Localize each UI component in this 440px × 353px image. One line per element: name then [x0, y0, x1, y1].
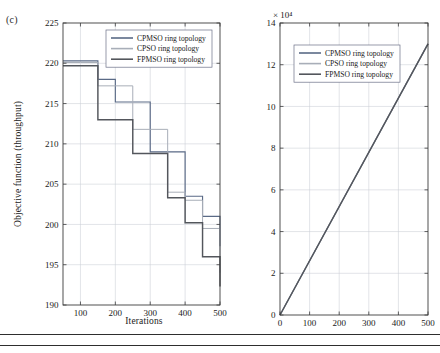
series-line-fpmso	[280, 44, 428, 315]
y-axis-label-left: Objective function (throughput)	[13, 56, 23, 271]
y-axis-exponent-right: × 10⁴	[273, 10, 292, 20]
y-tick-label: 210	[45, 139, 59, 149]
legend-label-fpmso: FPMSO ring topology	[325, 70, 393, 79]
chart-panel-left: Objective function (throughput) Iteratio…	[0, 0, 228, 353]
chart-panel-right: Fitness function evaluations Iterations …	[228, 0, 440, 353]
series-line-cpso	[63, 62, 220, 272]
legend-left: CPMSO ring topologyCPSO ring topologyFPM…	[106, 30, 212, 67]
legend-label-fpmso: FPMSO ring topology	[137, 55, 205, 64]
figure-container: (c) Objective function (throughput) Iter…	[0, 0, 440, 353]
y-tick-label: 0	[271, 310, 276, 320]
y-tick-label: 10	[267, 102, 277, 112]
y-tick-label: 200	[45, 220, 59, 230]
legend-label-cpmso: CPMSO ring topology	[325, 49, 394, 58]
legend-right: CPMSO ring topologyCPSO ring topologyFPM…	[294, 45, 400, 82]
x-tick-label: 100	[303, 318, 317, 328]
legend-label-cpso: CPSO ring topology	[325, 59, 387, 68]
y-tick-label: 2	[271, 268, 276, 278]
x-tick-label: 200	[332, 318, 346, 328]
footer-divider-top	[0, 334, 440, 335]
x-tick-label: 500	[421, 318, 435, 328]
x-tick-label: 400	[392, 318, 406, 328]
plot-area-right: 024681012140100200300400500CPMSO ring to…	[228, 0, 440, 353]
y-tick-label: 4	[271, 227, 276, 237]
y-tick-label: 220	[45, 58, 59, 68]
plot-area-left: 190195200205210215220225100200300400500C…	[0, 0, 228, 353]
x-axis-label-left: Iterations	[64, 316, 224, 326]
legend-label-cpso: CPSO ring topology	[137, 44, 199, 53]
y-tick-label: 12	[267, 60, 276, 70]
y-tick-label: 225	[45, 18, 59, 28]
y-tick-label: 195	[45, 260, 59, 270]
y-tick-label: 190	[45, 300, 59, 310]
series-line-fpmso	[63, 66, 220, 287]
footer-divider-bottom	[0, 345, 440, 346]
legend-label-cpmso: CPMSO ring topology	[137, 34, 206, 43]
y-tick-label: 8	[271, 143, 276, 153]
y-tick-label: 215	[45, 99, 59, 109]
y-tick-label: 205	[45, 179, 59, 189]
y-tick-label: 6	[271, 185, 276, 195]
x-tick-label: 0	[278, 318, 283, 328]
x-tick-label: 300	[362, 318, 376, 328]
